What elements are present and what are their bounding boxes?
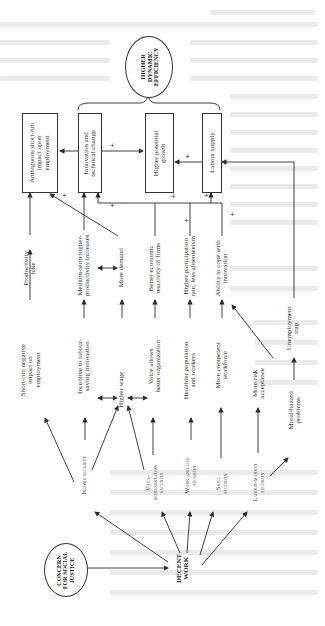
plus-sign: +	[62, 191, 67, 200]
node-line: hike	[30, 251, 37, 286]
concern-social-justice-ellipse: CONCERN FOR SOCIAL JUSTICE	[44, 543, 88, 597]
node-more-competent: More competentworkforce	[209, 330, 235, 400]
box-line: Labour supply	[208, 133, 215, 174]
node-line: security	[191, 457, 198, 493]
box-higher-potential-growth: Higher potential growth	[145, 113, 174, 193]
node-line: workforce	[222, 342, 229, 388]
node-line: Higher wage	[118, 372, 125, 408]
box-labour-supply: Labour supply	[202, 113, 222, 193]
box-line: technical change	[90, 130, 97, 177]
node-line: More demand	[118, 248, 125, 287]
plus-sign: +	[171, 192, 176, 201]
hub-line: WORK	[184, 553, 191, 582]
node-decent-work: DECENT WORK	[170, 548, 198, 588]
node-incentive: Incentive to labour-saving innovation	[72, 322, 98, 410]
plus-sign: +	[230, 210, 235, 219]
node-ability-cope: Ability to cope withinnovation	[209, 236, 235, 300]
node-line: acceptance	[259, 368, 266, 399]
box-line: employment	[44, 123, 51, 183]
higher-dynamic-efficiency-ellipse: HIGHER DYNAMIC EFFICIENCY	[125, 36, 173, 98]
box-line: growth	[160, 130, 167, 176]
node-unemployment-trap: Unemploymenttrap	[282, 298, 306, 358]
node-income-security: Income security	[76, 440, 94, 510]
node-better-economic: Better economicreactivity of firms	[142, 236, 168, 300]
node-line: trap	[294, 306, 301, 350]
plus-sign: +	[110, 201, 115, 210]
node-line: better organization	[155, 340, 162, 393]
node-voice-representation-security: Voice-representationsecurity	[140, 455, 170, 510]
plus-sign: +	[185, 152, 190, 161]
node-line: reactivity of firms	[155, 243, 162, 294]
node-labour-market-security: Labour-marketsecurity	[246, 453, 270, 511]
node-healthier: Healthier populationand workers	[177, 330, 203, 410]
node-line: and workers	[190, 341, 197, 399]
node-line: security	[158, 465, 165, 501]
ellipse-line: JUSTICE	[69, 551, 75, 588]
node-line: employment	[35, 344, 42, 396]
node-short-run-negative: Short-run negativeimpact onemployment	[16, 330, 46, 410]
node-moral-hazard: Moral-hazardproblems	[282, 380, 308, 440]
node-more-risk: More riskacceptance	[246, 358, 272, 408]
node-line: productivity increases	[85, 234, 92, 296]
node-line: saving innovation	[85, 338, 92, 393]
node-more-demand: More demand	[112, 236, 132, 300]
node-line: Income security	[82, 455, 89, 494]
node-line: security	[221, 473, 228, 493]
node-medium-term: Medium-term higher-productivity increase…	[72, 230, 98, 300]
box-innovation: Innovation and technical change	[78, 113, 102, 193]
node-line: security	[258, 463, 265, 501]
node-line: innovation	[222, 240, 229, 296]
box-ambiguous-impact: Ambiguous short-run impact upon employme…	[22, 113, 58, 193]
ellipse-line: EFFICIENCY	[152, 48, 159, 87]
diagram-connectors	[0, 0, 325, 626]
node-voice-allows: Voice allowsbetter organization	[142, 322, 168, 410]
node-skill-security: Skillsecurity	[210, 458, 232, 508]
node-line: problems	[295, 391, 302, 429]
node-productivity-hike: Productivityhike	[18, 236, 42, 300]
plus-sign: +	[110, 141, 115, 150]
node-higher-wage: Higher wage	[112, 370, 132, 410]
plus-sign: +	[204, 191, 209, 200]
plus-sign: +	[184, 216, 189, 225]
node-higher-participation: Higher participationrate, less absenteei…	[177, 232, 203, 300]
node-work-life-security: Work and lifesecurity	[180, 440, 202, 510]
node-line: rate, less absenteeism	[190, 236, 197, 296]
